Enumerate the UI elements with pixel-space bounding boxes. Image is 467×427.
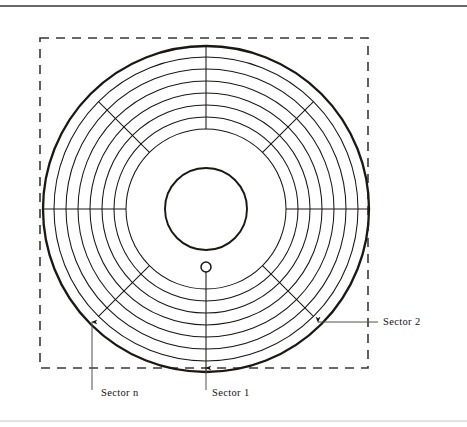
disk-sector-diagram: Sector nSector 1Sector 2 [0, 0, 467, 427]
center-hub-hole [165, 168, 247, 250]
index-hole [201, 262, 211, 272]
sector-n-label: Sector n [101, 387, 139, 398]
sector-2-label: Sector 2 [383, 316, 421, 327]
sector-1-label: Sector 1 [212, 387, 250, 398]
figure-root: Sector nSector 1Sector 2 [0, 0, 467, 427]
